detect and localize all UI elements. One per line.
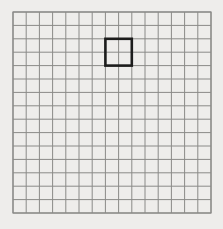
grid-svg: [0, 0, 223, 229]
figure-canvas: [0, 0, 223, 229]
background-rect: [0, 0, 223, 229]
grid-figure: [0, 0, 223, 229]
